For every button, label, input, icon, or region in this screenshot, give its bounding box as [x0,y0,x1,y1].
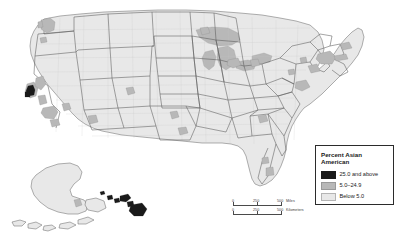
map-legend: Percent Asian American 25.0 and above 5.… [315,145,394,205]
asian-american-percent-map: .land { fill:#e8e8e8; stroke:#6e6e6e; st… [0,0,410,244]
legend-label-mid: 5.0–24.9 [340,182,362,189]
scale-label-0-km: 0 [232,208,234,212]
scale-unit-miles: Miles [286,199,295,203]
alaska-inset [12,163,106,231]
scale-bar: 0 250 500 Miles 0 250 500 Kilometers [233,200,295,218]
scale-label-250-miles: 250 [253,199,259,203]
conus-landmass [30,10,364,186]
scale-label-500-km: 500 [277,208,283,212]
us-choropleth-svg: .land { fill:#e8e8e8; stroke:#6e6e6e; st… [0,0,410,244]
hawaii-inset [100,191,147,216]
legend-row-mid: 5.0–24.9 [321,181,393,191]
scale-label-500-miles: 500 [277,199,283,203]
legend-row-low: Below 5.0 [321,192,393,202]
legend-swatch-high [321,171,336,179]
legend-row-high: 25.0 and above [321,170,393,180]
legend-label-high: 25.0 and above [340,171,379,178]
scale-label-0-miles: 0 [232,199,234,203]
legend-swatch-mid [321,182,336,190]
scale-label-250-km: 250 [253,208,259,212]
legend-label-low: Below 5.0 [340,193,365,200]
scale-bar-kilometers: 0 250 500 Kilometers [233,209,295,218]
scale-unit-kilometers: Kilometers [286,208,304,212]
legend-title: Percent Asian American [321,151,393,166]
legend-swatch-low [321,193,336,201]
